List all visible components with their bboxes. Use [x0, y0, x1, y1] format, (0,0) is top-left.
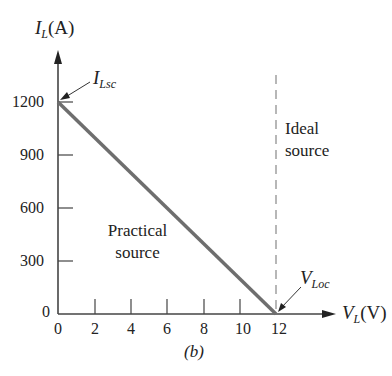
voc-arrow — [281, 287, 301, 308]
x-tick-label: 8 — [200, 320, 208, 338]
y-tick-label: 900 — [0, 146, 44, 164]
y-tick-label: 1200 — [0, 93, 44, 111]
y-label-sub: L — [41, 27, 48, 41]
ideal-line2: source — [285, 140, 329, 162]
x-tick-label: 10 — [235, 320, 251, 338]
practical-line2: source — [100, 242, 175, 264]
y-tick-label: 600 — [0, 199, 44, 217]
ideal-source-label: Ideal source — [285, 118, 329, 162]
x-label-symbol: V — [342, 302, 354, 323]
x-tick-label: 4 — [127, 320, 135, 338]
y-axis-label: IL(A) — [35, 18, 74, 37]
x-tick-label: 0 — [54, 320, 62, 338]
ideal-line1: Ideal — [285, 118, 329, 140]
isc-annotation: ILsc — [93, 68, 116, 87]
x-tick-label: 12 — [271, 320, 287, 338]
y-ticks — [58, 102, 73, 261]
x-ticks — [95, 299, 240, 314]
voc-sub: Loc — [312, 277, 330, 291]
voc-symbol: V — [300, 267, 312, 288]
practical-source-line — [58, 102, 276, 314]
isc-arrowhead-icon — [60, 92, 70, 100]
x-label-unit: (V) — [360, 302, 386, 323]
x-axis-label: VL(V) — [342, 303, 387, 322]
x-label-sub: L — [354, 312, 361, 326]
y-tick-label: 0 — [0, 303, 50, 321]
figure-caption: (b) — [184, 343, 204, 360]
y-tick-label: 300 — [0, 252, 44, 270]
y-label-unit: (A) — [48, 17, 74, 38]
x-tick-label: 2 — [91, 320, 99, 338]
x-tick-label: 6 — [163, 320, 171, 338]
practical-line1: Practical — [100, 220, 175, 242]
voc-annotation: VLoc — [300, 268, 330, 287]
y-axis-arrow-icon — [54, 50, 62, 64]
x-axis-arrow-icon — [322, 310, 336, 318]
practical-source-label: Practical source — [100, 220, 175, 264]
isc-sub: Lsc — [99, 77, 116, 91]
